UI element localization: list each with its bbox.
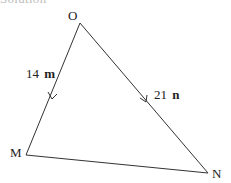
arrow-on-icon	[140, 95, 147, 102]
edge-label-on-coef: 21	[154, 87, 167, 102]
edge-label-om-vector: m	[44, 66, 55, 81]
vertex-label-m: M	[10, 145, 22, 160]
edge-label-om: 14 m	[26, 66, 55, 81]
edge-om	[26, 23, 80, 155]
edge-label-on: 21 n	[154, 87, 180, 102]
edge-on	[80, 23, 208, 173]
edge-label-on-vector: n	[172, 87, 180, 102]
edge-label-om-coef: 14	[26, 66, 40, 81]
triangle-diagram: O M N 14 m 21 n	[0, 0, 231, 183]
vertex-label-o: O	[68, 8, 77, 23]
vertex-label-n: N	[212, 166, 222, 181]
edge-mn	[26, 155, 208, 173]
